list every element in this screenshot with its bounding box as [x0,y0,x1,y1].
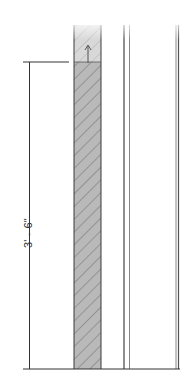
section-drawing [0,0,189,383]
hatched-wall [74,25,101,369]
double-line-stud [124,25,130,369]
right-edge-line [176,25,179,369]
top-fade [60,18,189,40]
dimension-label: 3' - 6" [21,209,35,257]
